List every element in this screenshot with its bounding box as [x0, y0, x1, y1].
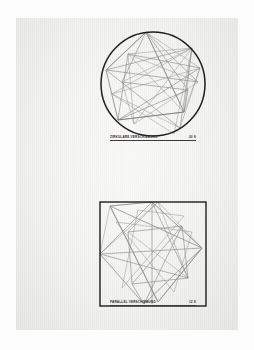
- square-figure-canvas: [88, 192, 218, 316]
- square-caption-rule: [110, 305, 196, 306]
- square-caption-value: 12 S: [189, 301, 196, 305]
- construction-polyline: [128, 202, 188, 278]
- circle-caption: ZIRKULÄRE VERSCHIEBUNG 20 S: [110, 136, 196, 139]
- screenshot-root: ZIRKULÄRE VERSCHIEBUNG 20 S PARALLEL VER…: [0, 0, 254, 350]
- circle-figure: [88, 24, 218, 148]
- circle-construction-lines: [106, 32, 200, 134]
- construction-polyline: [110, 202, 202, 302]
- square-caption: PARALLEL VERSCHIEBUNG 12 S: [110, 301, 196, 304]
- circle-caption-rule: [110, 140, 196, 141]
- construction-polyline: [106, 32, 198, 82]
- circle-figure-canvas: [88, 24, 218, 148]
- circle-caption-value: 20 S: [189, 136, 196, 140]
- square-figure: [88, 192, 218, 316]
- construction-polyline: [112, 48, 192, 134]
- square-caption-title: PARALLEL VERSCHIEBUNG: [110, 301, 156, 305]
- square-construction-lines: [100, 202, 202, 304]
- circle-caption-title: ZIRKULÄRE VERSCHIEBUNG: [110, 136, 158, 140]
- construction-polyline: [110, 206, 202, 302]
